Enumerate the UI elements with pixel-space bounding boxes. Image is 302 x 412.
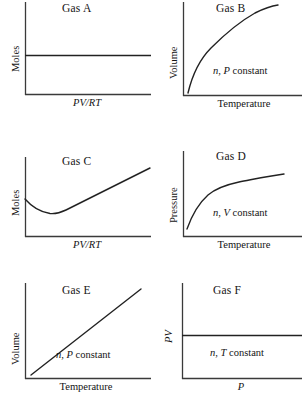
- panel-gas-b: Gas B n, P constant Temperature Volume: [151, 0, 302, 137]
- y-axis-label-gas-d: Pressure: [168, 187, 179, 223]
- panel-gas-a: Gas A PV/RT Moles: [0, 0, 151, 137]
- x-axis-label-gas-a: PV/RT: [32, 97, 142, 108]
- condition-label-gas-d: n, V constant: [213, 207, 268, 218]
- curve-gas-b: [188, 5, 278, 93]
- panel-title-gas-b: Gas B: [216, 2, 245, 14]
- panel-title-gas-e: Gas E: [62, 284, 91, 296]
- condition-label-gas-b: n, P constant: [213, 65, 268, 76]
- condition-tail: constant: [233, 65, 268, 76]
- condition-n: n: [210, 347, 215, 358]
- condition-tail: constant: [229, 347, 264, 358]
- condition-var: V: [224, 207, 230, 218]
- condition-n: n: [213, 207, 218, 218]
- curve-gas-d: [187, 174, 284, 229]
- condition-label-gas-f: n, T constant: [210, 347, 264, 358]
- panel-title-gas-c: Gas C: [62, 155, 91, 167]
- condition-var: P: [224, 65, 230, 76]
- panel-title-gas-f: Gas F: [213, 284, 241, 296]
- condition-var: P: [67, 349, 73, 360]
- panel-gas-f: Gas F n, T constant P PV: [151, 275, 302, 412]
- condition-tail: constant: [76, 349, 111, 360]
- x-axis-label-gas-b: Temperature: [186, 98, 302, 109]
- y-axis-label-gas-b: Volume: [168, 47, 179, 79]
- x-axis-label-gas-c: PV/RT: [32, 239, 142, 250]
- gas-law-figure-grid: Gas A PV/RT Moles Gas B n, P constant Te…: [0, 0, 302, 412]
- panel-gas-c: Gas C PV/RT Moles: [0, 137, 151, 274]
- condition-label-gas-e: n, P constant: [56, 349, 111, 360]
- x-axis-label-gas-e: Temperature: [28, 381, 144, 392]
- plot-gas-a: [0, 0, 151, 137]
- panel-gas-d: Gas D n, V constant Temperature Pressure: [151, 137, 302, 274]
- condition-var: T: [221, 347, 227, 358]
- panel-title-gas-d: Gas D: [216, 150, 246, 162]
- condition-n: n: [56, 349, 61, 360]
- x-axis-label-gas-f: P: [183, 381, 299, 392]
- y-axis-label-gas-a: Moles: [10, 46, 21, 72]
- condition-tail: constant: [233, 207, 268, 218]
- panel-title-gas-a: Gas A: [62, 2, 91, 14]
- y-axis-label-gas-e: Volume: [10, 333, 21, 365]
- condition-n: n: [213, 65, 218, 76]
- x-axis-label-gas-d: Temperature: [186, 239, 302, 250]
- panel-gas-e: Gas E n, P constant Temperature Volume: [0, 275, 151, 412]
- curve-gas-c: [25, 168, 150, 214]
- y-axis-label-gas-f: PV: [163, 330, 174, 343]
- y-axis-label-gas-c: Moles: [10, 190, 21, 216]
- curve-gas-e: [31, 289, 141, 375]
